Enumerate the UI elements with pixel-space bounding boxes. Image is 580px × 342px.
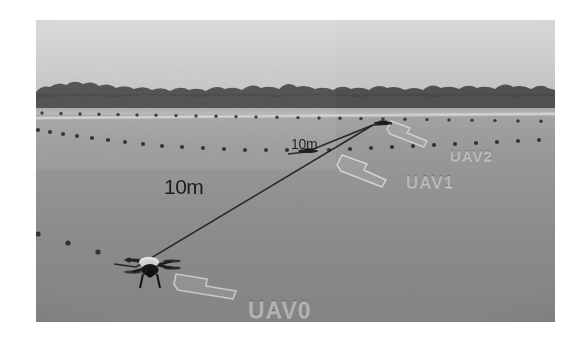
marker-row-near	[36, 128, 541, 152]
marker-row-far	[40, 111, 542, 123]
measure-line-long	[136, 125, 373, 267]
measure-tail-uav0	[114, 264, 136, 267]
field-photograph: 10m 10m UAV2 UAV1 UAV0	[36, 20, 555, 322]
faint-caption-text	[130, 325, 460, 337]
arrow-to-uav2	[387, 121, 427, 147]
annotation-overlay	[36, 20, 555, 322]
figure-root: 10m 10m UAV2 UAV1 UAV0	[0, 0, 580, 342]
uav2-aircraft	[374, 121, 392, 125]
uav1-aircraft	[298, 149, 318, 154]
measure-line-short	[306, 125, 373, 152]
grass-texture	[46, 172, 524, 316]
arrow-to-uav1	[337, 155, 386, 187]
arrow-to-uav0	[174, 274, 236, 299]
uav0-aircraft	[124, 257, 181, 288]
marker-row-foreground	[36, 231, 132, 262]
